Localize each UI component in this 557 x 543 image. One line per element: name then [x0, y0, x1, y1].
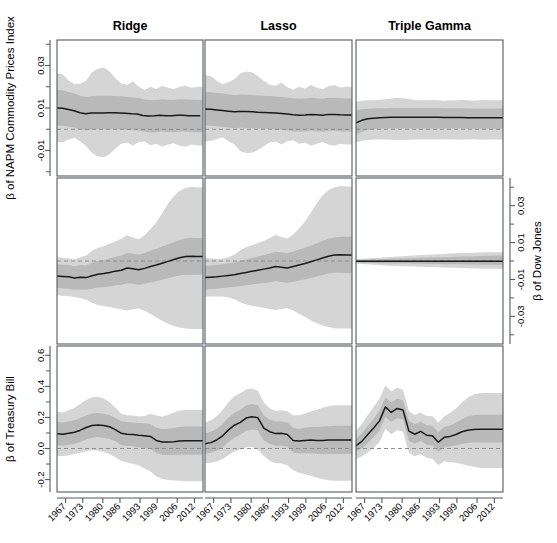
panel-r1-c1: [57, 40, 203, 176]
x-tick-label: 2006: [157, 501, 180, 524]
y-tick-label: -0.01: [35, 140, 46, 162]
panel-title-col3: Triple Gamma: [388, 19, 472, 33]
panel-plot-area: [205, 389, 352, 481]
x-tick-label: 2012: [474, 501, 497, 524]
y-tick-label: 0.03: [35, 56, 46, 75]
x-tick-label: 1999: [137, 501, 160, 524]
x-axis: 1967197319801986199319992006201219671973…: [45, 498, 503, 523]
panel-r3-c2: [205, 346, 352, 492]
y-axis-title-row3: β of Treasury Bill: [4, 376, 16, 462]
x-tick-label: 1973: [362, 501, 385, 524]
panel-r3-c1: [57, 346, 203, 492]
x-tick-label: 1986: [399, 501, 422, 524]
x-tick-label: 1986: [248, 501, 271, 524]
x-tick-label: 1999: [286, 501, 309, 524]
y-tick-label: 0.0: [35, 442, 46, 455]
y-tick-label: -0.01: [515, 269, 526, 291]
y-tick-label: -0.2: [35, 471, 46, 487]
x-tick-label: 1967: [344, 501, 367, 524]
x-tick-label: 2006: [306, 501, 329, 524]
panel-title-col1: Ridge: [113, 19, 148, 33]
panel-plot-area: [356, 252, 503, 269]
x-tick-label: 1999: [437, 501, 460, 524]
panel-r2-c3: [356, 178, 503, 344]
panel-title-col2: Lasso: [260, 19, 296, 33]
panel-plot-area: [205, 186, 352, 328]
x-tick-label: 1980: [82, 501, 105, 524]
x-tick-label: 1973: [211, 501, 234, 524]
panel-r2-c2: [205, 178, 352, 344]
x-tick-label: 1980: [382, 501, 405, 524]
panel-r3-c3: [356, 346, 503, 492]
y-axis-title-row2: β of Dow Jones: [531, 221, 543, 301]
credible-band-inner: [205, 92, 352, 132]
panel-plot-area: [356, 98, 503, 143]
y-axis-row3: 0.60.40.20.0-0.2: [35, 346, 50, 492]
panel-r1-c2: [205, 40, 352, 176]
y-axis-title-row1: β of NAPM Commodity Prices Index: [4, 16, 16, 200]
x-tick-label: 1993: [120, 501, 143, 524]
y-tick-label: 0.01: [35, 99, 46, 118]
y-axis-row2-right: 0.030.01-0.01-0.03: [510, 178, 526, 344]
panel-plot-area: [356, 385, 503, 468]
y-tick-label: 0.03: [515, 196, 526, 215]
x-tick-label: 1993: [268, 501, 291, 524]
y-tick-label: -0.03: [515, 306, 526, 328]
y-tick-label: 0.2: [35, 411, 46, 424]
x-tick-label: 1986: [100, 501, 123, 524]
panel-r1-c3: [356, 40, 503, 176]
y-tick-label: 0.01: [515, 233, 526, 252]
column-titles: RidgeLassoTriple Gamma: [113, 19, 472, 33]
x-tick-label: 1967: [193, 501, 216, 524]
y-tick-label: 0.6: [35, 349, 46, 362]
figure-root: RidgeLassoTriple Gamma0.030.01-0.010.60.…: [0, 0, 557, 543]
y-tick-label: 0.4: [35, 380, 46, 393]
y-axis-row1: 0.030.01-0.01: [35, 40, 50, 176]
panel-plot-area: [57, 397, 203, 482]
panel-r2-c1: [57, 178, 203, 344]
x-tick-label: 2012: [323, 501, 346, 524]
panel-plot-area: [57, 68, 203, 158]
x-tick-label: 1973: [62, 501, 85, 524]
x-tick-label: 1980: [231, 501, 254, 524]
x-tick-label: 2012: [174, 501, 197, 524]
x-tick-label: 1993: [419, 501, 442, 524]
x-tick-label: 2006: [457, 501, 480, 524]
panel-plot-area: [57, 187, 203, 329]
y-axis-minor-ticks: [46, 44, 50, 464]
panel-plot-area: [205, 71, 352, 153]
x-tick-label: 1967: [45, 501, 68, 524]
multi-panel-chart: RidgeLassoTriple Gamma0.030.01-0.010.60.…: [0, 0, 557, 543]
